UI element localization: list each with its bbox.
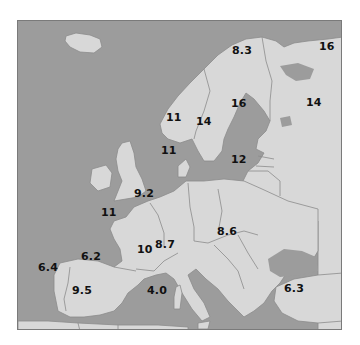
europe-map: 8.3 16 11 14 16 14 11 12 9.2 11 6.2 10 8…	[17, 20, 342, 330]
value-label-france-brittany: 11	[101, 207, 117, 218]
value-label-france-south: 10	[137, 244, 153, 255]
value-label-lithuania: 12	[231, 154, 247, 165]
value-label-norway-north: 8.3	[232, 45, 252, 56]
value-label-russia-north: 16	[319, 41, 335, 52]
value-label-finland: 16	[231, 98, 247, 109]
value-label-switzerland: 8.7	[155, 239, 175, 250]
value-label-spain-south: 9.5	[72, 285, 92, 296]
value-label-benelux: 9.2	[134, 188, 154, 199]
value-label-turkey: 6.3	[284, 283, 304, 294]
value-label-sardinia: 4.0	[147, 285, 167, 296]
lake-ladoga	[280, 116, 292, 127]
value-label-denmark: 11	[161, 145, 177, 156]
value-label-spain-north: 6.2	[81, 251, 101, 262]
value-label-russia: 14	[306, 97, 322, 108]
value-label-portugal: 6.4	[38, 262, 58, 273]
value-label-norway: 11	[166, 112, 182, 123]
value-label-hungary: 8.6	[217, 226, 237, 237]
value-label-sweden: 14	[196, 116, 212, 127]
